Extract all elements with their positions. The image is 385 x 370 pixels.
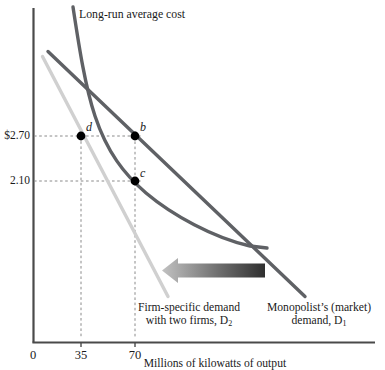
- shift-arrow-body: [162, 258, 265, 283]
- legend-d1-line1: Monopolist’s (market): [255, 301, 383, 314]
- series-curve-lrac: [73, 7, 267, 248]
- legend-d2-subscript: 2: [228, 319, 232, 328]
- x-axis-title: Millions of kilowatts of output: [115, 357, 315, 370]
- legend-d1-line2-text: demand, D: [292, 314, 343, 327]
- legend-d2-line2-text: with two firms, D: [146, 314, 228, 327]
- point-label-c: c: [140, 167, 145, 180]
- label-long-run-average-cost: Long-run average cost: [79, 8, 185, 21]
- legend-d1-line2: demand, D1: [255, 314, 383, 329]
- legend-monopolist-demand: Monopolist’s (market) demand, D1: [255, 301, 383, 329]
- series-line-d2: [43, 57, 169, 297]
- legend-d2-line1: Firm-specific demand: [123, 301, 255, 314]
- point-label-d: d: [86, 121, 92, 134]
- y-tick-label-270: $2.70: [0, 129, 30, 142]
- legend-d1-subscript: 1: [342, 319, 346, 328]
- y-tick-label-210: 2.10: [0, 174, 30, 187]
- shift-arrow: [162, 258, 265, 283]
- legend-firm-specific-demand: Firm-specific demand with two firms, D2: [123, 301, 255, 329]
- x-tick-label-35: 35: [71, 348, 91, 362]
- legend-d2-line2: with two firms, D2: [123, 314, 255, 329]
- axes: [32, 8, 375, 343]
- point-c: [131, 177, 140, 186]
- point-b: [131, 132, 140, 141]
- point-d: [77, 132, 86, 141]
- point-label-b: b: [140, 121, 146, 134]
- x-tick-label-0: 0: [24, 348, 42, 362]
